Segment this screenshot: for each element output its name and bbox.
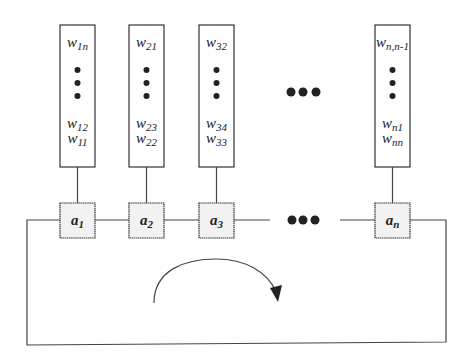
vertical-ellipsis-dot	[144, 80, 150, 86]
feedback-loop	[27, 220, 446, 345]
vertical-ellipsis-dot	[75, 67, 81, 73]
vertical-ellipsis-dot	[390, 93, 396, 99]
vertical-ellipsis-dot	[214, 80, 220, 86]
weight-column-3: w32w34w33a3	[199, 25, 234, 238]
node-ellipsis	[288, 216, 320, 225]
rotation-arrow	[154, 259, 276, 303]
vertical-ellipsis-dot	[75, 93, 81, 99]
vertical-ellipsis-dot	[214, 93, 220, 99]
weight-column-2: w21w23w22a2	[129, 25, 164, 238]
ring-diagram: w1nw12w11a1w21w23w22a2w32w34w33a3wn,n-1w…	[0, 0, 470, 363]
vertical-ellipsis-dot	[390, 80, 396, 86]
vertical-ellipsis-dot	[144, 67, 150, 73]
weight-column-1: w1nw12w11a1	[60, 25, 95, 238]
vertical-ellipsis-dot	[214, 67, 220, 73]
vertical-ellipsis-dot	[390, 67, 396, 73]
vertical-ellipsis-dot	[144, 93, 150, 99]
arrowhead-icon	[270, 285, 282, 302]
column-ellipsis	[287, 88, 321, 97]
vertical-ellipsis-dot	[75, 80, 81, 86]
weight-column-4: wn,n-1wn1wnnan	[375, 25, 410, 238]
